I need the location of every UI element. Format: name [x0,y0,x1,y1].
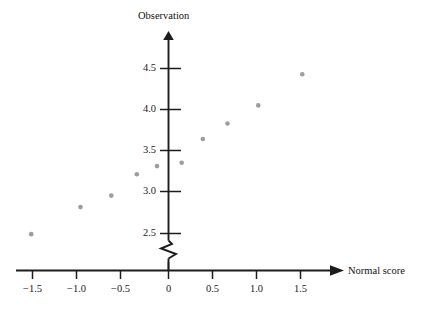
y-axis-title: Observation [138,10,190,21]
data-point [179,161,184,166]
x-tick-label: −0.5 [111,283,130,294]
data-point [135,172,140,177]
y-axis-tick-labels: 4.5 4.0 3.5 3.0 2.5 [143,62,156,238]
x-axis-tick-labels: −1.5 −1.0 −0.5 0 0.5 1.0 1.5 [23,283,307,294]
data-point [29,232,34,237]
normal-probability-plot: −1.5 −1.0 −0.5 0 0.5 1.0 1.5 4.5 4.0 3.5… [0,0,424,317]
x-tick-label: −1.5 [23,283,42,294]
plot-canvas: −1.5 −1.0 −0.5 0 0.5 1.0 1.5 4.5 4.0 3.5… [0,0,424,317]
data-point [78,205,83,210]
x-tick-label: −1.0 [67,283,86,294]
data-point [300,72,305,77]
y-tick-label: 3.0 [143,185,156,196]
y-tick-label: 4.0 [143,103,156,114]
x-tick-label: 0 [166,283,171,294]
y-tick-label: 2.5 [143,227,156,238]
y-axis-arrow-icon [163,31,174,40]
x-tick-label: 1.0 [250,283,263,294]
x-tick-label: 1.5 [294,283,307,294]
y-axis-break-icon [161,241,176,259]
x-axis-title: Normal score [348,265,405,276]
data-point [256,103,261,108]
data-point [201,137,206,142]
x-axis-arrow-icon [330,265,344,276]
data-point [225,121,230,126]
x-tick-label: 0.5 [206,283,219,294]
y-axis-ticks [160,69,181,234]
data-point [109,193,114,198]
data-point [155,164,160,169]
data-point-series [29,72,305,237]
y-tick-label: 3.5 [143,144,156,155]
y-tick-label: 4.5 [143,62,156,73]
